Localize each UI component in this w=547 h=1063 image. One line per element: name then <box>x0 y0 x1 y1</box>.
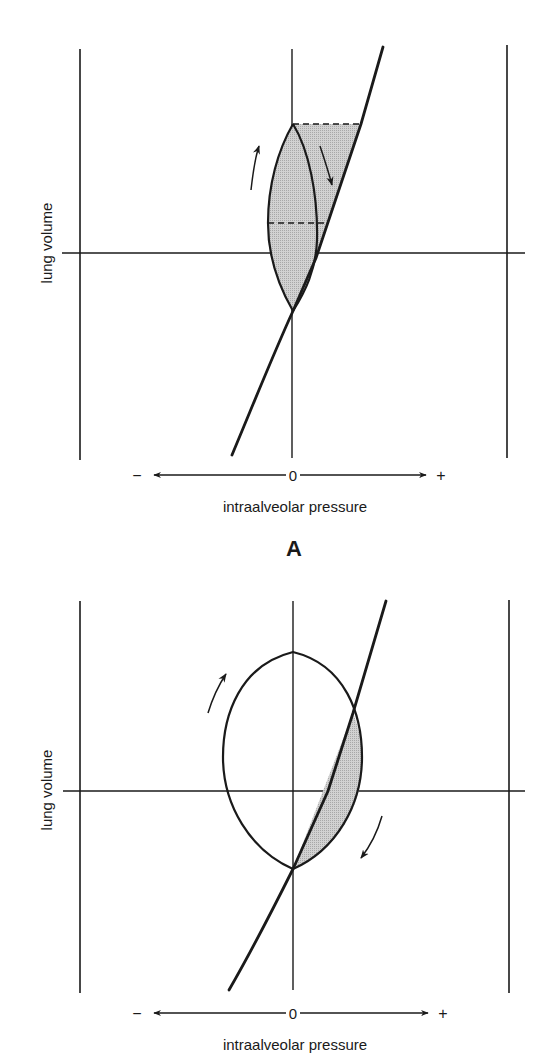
x-axis-label: intraalveolar pressure <box>223 1036 367 1053</box>
panel-b: − 0 + intraalveolar pressure lung volume <box>38 600 525 1053</box>
x-axis-label: intraalveolar pressure <box>223 498 367 515</box>
inspiration-arrow-icon <box>208 674 226 713</box>
pressure-minus-sign: − <box>132 1005 141 1022</box>
pressure-minus-sign: − <box>132 467 141 484</box>
pressure-plus-sign: + <box>436 467 445 484</box>
y-axis-label: lung volume <box>38 750 55 831</box>
pressure-plus-sign: + <box>438 1005 447 1022</box>
figure-canvas: − 0 + intraalveolar pressure lung volume… <box>0 0 547 1063</box>
y-axis-label: lung volume <box>38 203 55 284</box>
inspiration-arrow-icon <box>251 146 259 190</box>
shaded-work-area <box>268 124 361 311</box>
panel-a: − 0 + intraalveolar pressure lung volume… <box>38 45 525 561</box>
panel-label-a: A <box>286 536 302 561</box>
pressure-zero-label: 0 <box>289 467 297 484</box>
compliance-curve <box>229 601 386 990</box>
pressure-zero-label: 0 <box>289 1005 297 1022</box>
expiration-arrow-icon <box>361 816 382 858</box>
